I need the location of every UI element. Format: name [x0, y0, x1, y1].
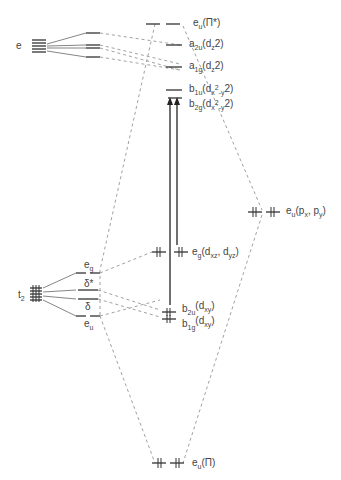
- left-e-label: e: [16, 40, 22, 51]
- label-b2u: b2u(dxy): [182, 300, 215, 316]
- transition-arrows: [167, 97, 180, 305]
- b1g-center-level: b1g(dxy): [162, 315, 215, 332]
- label-a1g: a1g(dz2): [189, 60, 224, 74]
- t2-electrons-block: [30, 285, 42, 302]
- delta-label: δ: [85, 301, 91, 312]
- label-a2u: a2u(dz2): [189, 38, 224, 51]
- label-b1u: b1u(dx2-y2): [189, 83, 233, 97]
- delta-star-label: δ*: [84, 278, 94, 289]
- eg-center-level: eg(dxz, dyz): [152, 246, 239, 260]
- label-eg: eg(dxz, dyz): [192, 246, 239, 260]
- label-eu-pi-star: eu(Π*): [193, 17, 220, 30]
- eu-label: eu: [84, 318, 94, 331]
- left-t2-term: t2 eg δ* δ eu: [18, 259, 100, 331]
- label-b2g: b2g(dx2-y2): [189, 98, 233, 112]
- right-eu-level: eu(px, py): [248, 205, 326, 219]
- t2-label: t2: [18, 289, 25, 302]
- mo-diagram: e t2: [0, 0, 341, 480]
- left-e-term: e: [16, 33, 100, 57]
- label-b1g: b1g(dxy): [182, 315, 215, 332]
- label-eu-pi: eu(Π): [192, 457, 215, 470]
- eg-label: eg: [84, 259, 94, 273]
- label-eu-pxpy: eu(px, py): [286, 205, 326, 219]
- center-levels: eu(Π*) a2u(dz2) a1g(dz2) b1u(dx2-y2) b2g…: [146, 17, 239, 470]
- eu-pi-level: eu(Π): [152, 457, 215, 470]
